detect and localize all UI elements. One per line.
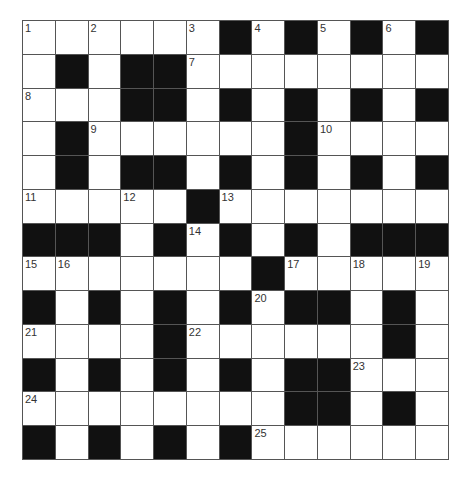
- answer-cell[interactable]: [56, 426, 88, 459]
- answer-cell[interactable]: [154, 190, 186, 223]
- answer-cell[interactable]: 16: [56, 257, 88, 290]
- answer-cell[interactable]: [23, 55, 55, 88]
- answer-cell[interactable]: [351, 190, 383, 223]
- answer-cell[interactable]: [23, 156, 55, 189]
- answer-cell[interactable]: 12: [121, 190, 153, 223]
- answer-cell[interactable]: 25: [252, 426, 284, 459]
- answer-cell[interactable]: [220, 55, 252, 88]
- answer-cell[interactable]: [416, 291, 448, 324]
- answer-cell[interactable]: [318, 325, 350, 358]
- answer-cell[interactable]: [121, 426, 153, 459]
- answer-cell[interactable]: 4: [252, 21, 284, 54]
- answer-cell[interactable]: [416, 392, 448, 425]
- answer-cell[interactable]: [285, 55, 317, 88]
- answer-cell[interactable]: [154, 21, 186, 54]
- answer-cell[interactable]: [252, 190, 284, 223]
- answer-cell[interactable]: [56, 359, 88, 392]
- answer-cell[interactable]: [89, 257, 121, 290]
- answer-cell[interactable]: [285, 325, 317, 358]
- answer-cell[interactable]: [56, 190, 88, 223]
- answer-cell[interactable]: 21: [23, 325, 55, 358]
- answer-cell[interactable]: [187, 392, 219, 425]
- answer-cell[interactable]: 23: [351, 359, 383, 392]
- answer-cell[interactable]: 11: [23, 190, 55, 223]
- answer-cell[interactable]: [56, 89, 88, 122]
- answer-cell[interactable]: [187, 257, 219, 290]
- answer-cell[interactable]: [416, 359, 448, 392]
- answer-cell[interactable]: [383, 257, 415, 290]
- answer-cell[interactable]: [89, 325, 121, 358]
- answer-cell[interactable]: [56, 325, 88, 358]
- answer-cell[interactable]: [187, 156, 219, 189]
- answer-cell[interactable]: [383, 426, 415, 459]
- answer-cell[interactable]: 24: [23, 392, 55, 425]
- answer-cell[interactable]: [121, 392, 153, 425]
- answer-cell[interactable]: [252, 156, 284, 189]
- answer-cell[interactable]: [416, 325, 448, 358]
- answer-cell[interactable]: [187, 426, 219, 459]
- answer-cell[interactable]: [220, 325, 252, 358]
- answer-cell[interactable]: [416, 122, 448, 155]
- answer-cell[interactable]: [56, 392, 88, 425]
- answer-cell[interactable]: [220, 122, 252, 155]
- answer-cell[interactable]: [383, 122, 415, 155]
- answer-cell[interactable]: [285, 190, 317, 223]
- answer-cell[interactable]: 20: [252, 291, 284, 324]
- answer-cell[interactable]: 2: [89, 21, 121, 54]
- answer-cell[interactable]: [220, 257, 252, 290]
- answer-cell[interactable]: [252, 55, 284, 88]
- answer-cell[interactable]: [285, 426, 317, 459]
- answer-cell[interactable]: [121, 291, 153, 324]
- answer-cell[interactable]: [351, 55, 383, 88]
- answer-cell[interactable]: [121, 224, 153, 257]
- answer-cell[interactable]: [416, 55, 448, 88]
- answer-cell[interactable]: [89, 392, 121, 425]
- answer-cell[interactable]: [121, 21, 153, 54]
- answer-cell[interactable]: 13: [220, 190, 252, 223]
- answer-cell[interactable]: [89, 156, 121, 189]
- answer-cell[interactable]: [23, 122, 55, 155]
- answer-cell[interactable]: 10: [318, 122, 350, 155]
- answer-cell[interactable]: [89, 55, 121, 88]
- answer-cell[interactable]: [252, 359, 284, 392]
- answer-cell[interactable]: [252, 224, 284, 257]
- answer-cell[interactable]: [351, 325, 383, 358]
- answer-cell[interactable]: [187, 291, 219, 324]
- answer-cell[interactable]: [121, 257, 153, 290]
- answer-cell[interactable]: 8: [23, 89, 55, 122]
- answer-cell[interactable]: 14: [187, 224, 219, 257]
- answer-cell[interactable]: [318, 190, 350, 223]
- answer-cell[interactable]: [351, 122, 383, 155]
- answer-cell[interactable]: [220, 392, 252, 425]
- answer-cell[interactable]: [187, 122, 219, 155]
- answer-cell[interactable]: [383, 55, 415, 88]
- answer-cell[interactable]: [187, 89, 219, 122]
- answer-cell[interactable]: [154, 122, 186, 155]
- answer-cell[interactable]: [56, 21, 88, 54]
- answer-cell[interactable]: [89, 89, 121, 122]
- answer-cell[interactable]: [89, 190, 121, 223]
- answer-cell[interactable]: 3: [187, 21, 219, 54]
- answer-cell[interactable]: [318, 156, 350, 189]
- answer-cell[interactable]: [383, 89, 415, 122]
- answer-cell[interactable]: [252, 392, 284, 425]
- answer-cell[interactable]: [154, 257, 186, 290]
- answer-cell[interactable]: [351, 291, 383, 324]
- answer-cell[interactable]: [318, 257, 350, 290]
- answer-cell[interactable]: [383, 359, 415, 392]
- answer-cell[interactable]: 5: [318, 21, 350, 54]
- answer-cell[interactable]: 6: [383, 21, 415, 54]
- answer-cell[interactable]: [416, 190, 448, 223]
- answer-cell[interactable]: [351, 426, 383, 459]
- answer-cell[interactable]: [318, 89, 350, 122]
- answer-cell[interactable]: [56, 291, 88, 324]
- answer-cell[interactable]: 1: [23, 21, 55, 54]
- answer-cell[interactable]: 22: [187, 325, 219, 358]
- answer-cell[interactable]: [187, 359, 219, 392]
- answer-cell[interactable]: 17: [285, 257, 317, 290]
- answer-cell[interactable]: 9: [89, 122, 121, 155]
- answer-cell[interactable]: [351, 392, 383, 425]
- answer-cell[interactable]: 19: [416, 257, 448, 290]
- answer-cell[interactable]: [383, 156, 415, 189]
- answer-cell[interactable]: [252, 122, 284, 155]
